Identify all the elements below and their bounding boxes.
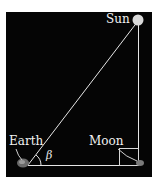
sun-icon [133, 15, 144, 26]
moon-icon [136, 160, 144, 166]
angle-arc [36, 155, 41, 165]
sun-label: Sun [106, 13, 130, 25]
earth-pointer [16, 149, 22, 160]
moon-label: Moon [89, 135, 123, 147]
earth-label: Earth [9, 135, 43, 147]
moon-pointer [118, 149, 137, 161]
earth-highlight-icon [19, 160, 25, 164]
angle-beta-label: β [46, 150, 52, 161]
triangle-diagram [0, 0, 157, 185]
